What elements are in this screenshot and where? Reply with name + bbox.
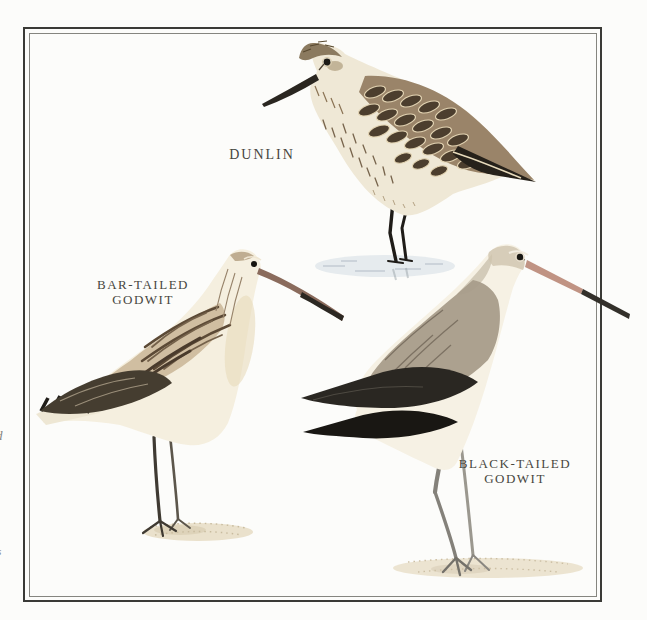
- field-guide-plate-page: d s: [0, 0, 647, 620]
- bar-tailed-godwit-label: BAR-TAILED GODWIT: [73, 277, 213, 307]
- dunlin-label: DUNLIN: [192, 147, 332, 162]
- margin-text-fragment-2: s: [0, 545, 1, 557]
- black-tailed-godwit-label: BLACK-TAILED GODWIT: [444, 456, 586, 486]
- black-tailed-godwit-label-line2: GODWIT: [444, 471, 586, 486]
- dunlin-label-text: DUNLIN: [192, 147, 332, 162]
- black-tailed-godwit-label-line1: BLACK-TAILED: [444, 456, 586, 471]
- black-tailed-godwit-bill: [525, 260, 630, 319]
- margin-text-fragment-1: d: [0, 428, 3, 444]
- bar-tailed-godwit-ground: [143, 523, 253, 541]
- bar-tailed-godwit-legs: [143, 435, 190, 536]
- black-tailed-godwit-illustration: [293, 240, 643, 585]
- bar-tailed-godwit-label-line1: BAR-TAILED: [73, 277, 213, 292]
- bar-tailed-godwit-label-line2: GODWIT: [73, 292, 213, 307]
